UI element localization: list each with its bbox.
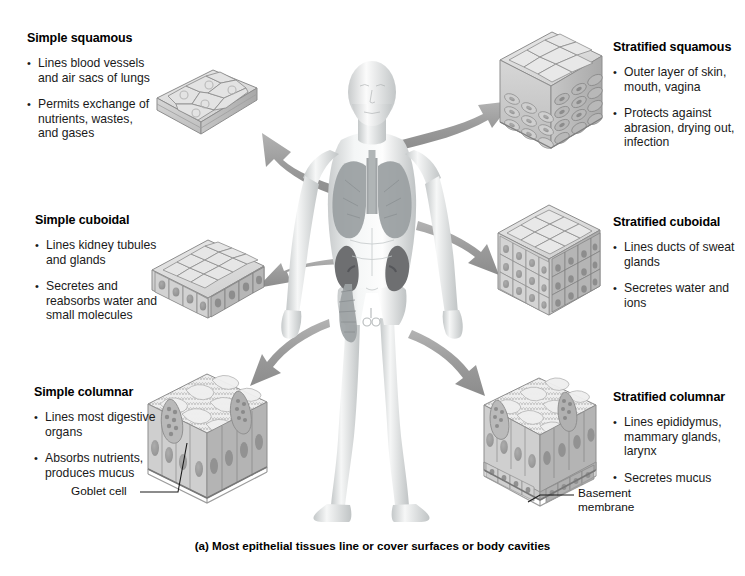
tissue-block-stratified-cuboidal: [498, 205, 600, 315]
panel-stratified-squamous: Stratified squamous Outer layer of skin,…: [613, 40, 741, 150]
lungs-organ: [332, 150, 411, 238]
left-arm: [286, 176, 319, 314]
arrow-to-simple-cuboidal: [257, 257, 352, 288]
panel-simple-cuboidal: Simple cuboidal Lines kidney tubules and…: [35, 213, 165, 323]
panel-title-simple-squamous: Simple squamous: [27, 31, 152, 45]
arrow-to-simple-columnar: [250, 319, 330, 386]
goblet-cell-front: [161, 399, 183, 443]
panel-stratified-columnar: Stratified columnar Lines epididymus, ma…: [613, 390, 741, 485]
head: [348, 61, 396, 123]
figure-caption: (a) Most epithelial tissues line or cove…: [0, 539, 745, 552]
torso: [328, 132, 416, 289]
panel-title-simple-columnar: Simple columnar: [34, 385, 164, 399]
face-features: [360, 85, 385, 114]
bullet-item: Protects against abrasion, drying out, i…: [613, 106, 741, 150]
jaw: [352, 104, 392, 126]
bullet-list-simple-squamous: Lines blood vessels and air sacs of lung…: [27, 56, 152, 141]
arrow-to-simple-squamous: [262, 133, 342, 197]
arrow-group: [250, 101, 513, 396]
body-contours: [350, 228, 394, 290]
tissue-block-simple-cuboidal: [152, 240, 264, 318]
bullet-item: Lines blood vessels and air sacs of lung…: [27, 56, 152, 85]
callout-goblet-cell: Goblet cell: [71, 485, 127, 499]
tissue-block-simple-squamous: [157, 70, 257, 134]
arrow-to-stratified-columnar: [408, 330, 485, 396]
panel-title-stratified-cuboidal: Stratified cuboidal: [613, 215, 741, 229]
bullet-list-stratified-columnar: Lines epididymus, mammary glands, larynx…: [613, 415, 741, 485]
right-arm: [425, 176, 458, 314]
arrow-to-stratified-squamous: [398, 101, 513, 150]
shoulders-right: [405, 150, 441, 186]
right-hand: [443, 310, 463, 339]
neck: [358, 118, 386, 145]
pelvis: [337, 278, 406, 325]
panel-simple-columnar: Simple columnar Lines most digestive org…: [34, 385, 164, 480]
large-intestine-organ: [339, 284, 357, 342]
callout-basement-membrane: Basement membrane: [578, 487, 634, 514]
bullet-item: Lines epididymus, mammary glands, larynx: [613, 415, 741, 459]
right-foot: [392, 504, 430, 522]
groin-detail: [363, 308, 380, 326]
bullet-list-simple-cuboidal: Lines kidney tubules and glands Secretes…: [35, 238, 165, 323]
arrow-to-stratified-cuboidal: [416, 221, 499, 275]
left-foot: [313, 504, 351, 522]
basement-membrane-leader: [528, 495, 574, 502]
bullet-item: Absorbs nutrients, produces mucus: [34, 451, 164, 480]
bullet-item: Lines kidney tubules and glands: [35, 238, 165, 267]
tissue-block-simple-columnar: [148, 374, 267, 503]
kidneys-organ: [335, 246, 409, 291]
figure-canvas: Simple squamous Lines blood vessels and …: [0, 0, 745, 576]
bullet-list-simple-columnar: Lines most digestive organs Absorbs nutr…: [34, 410, 164, 480]
bullet-list-stratified-cuboidal: Lines ducts of sweat glands Secretes wat…: [613, 240, 741, 310]
bullet-item: Secretes mucus: [613, 471, 741, 486]
goblet-cell-side-strat: [558, 392, 577, 431]
bullet-list-stratified-squamous: Outer layer of skin, mouth, vagina Prote…: [613, 65, 741, 150]
left-hand: [281, 310, 301, 339]
left-leg: [331, 318, 360, 506]
leader-lines: [140, 443, 574, 502]
human-body-figure: [281, 61, 462, 522]
panel-title-stratified-columnar: Stratified columnar: [613, 390, 741, 404]
goblet-cell-front-strat: [490, 400, 509, 439]
panel-title-stratified-squamous: Stratified squamous: [613, 40, 741, 54]
bullet-item: Lines most digestive organs: [34, 410, 164, 439]
bullet-item: Secretes and reabsorbs water and small m…: [35, 279, 165, 323]
right-leg: [380, 318, 409, 506]
tissue-block-stratified-squamous: [500, 32, 604, 151]
shoulders: [303, 150, 339, 186]
bullet-item: Outer layer of skin, mouth, vagina: [613, 65, 741, 94]
bullet-item: Secretes water and ions: [613, 281, 741, 310]
bullet-item: Permits exchange of nutrients, wastes, a…: [27, 97, 152, 141]
panel-title-simple-cuboidal: Simple cuboidal: [35, 213, 165, 227]
bullet-item: Lines ducts of sweat glands: [613, 240, 741, 269]
goblet-cell-side: [230, 391, 251, 434]
panel-simple-squamous: Simple squamous Lines blood vessels and …: [27, 31, 152, 141]
panel-stratified-cuboidal: Stratified cuboidal Lines ducts of sweat…: [613, 215, 741, 310]
